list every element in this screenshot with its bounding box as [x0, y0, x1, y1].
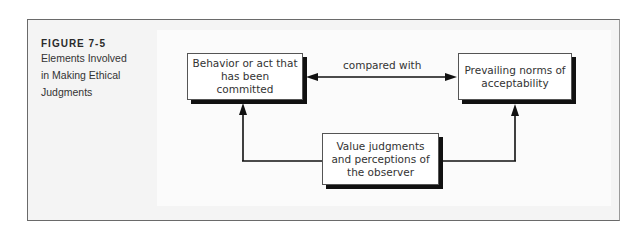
arrow-right-icon — [445, 73, 457, 81]
arrow-up-left-icon — [239, 103, 247, 115]
diagram-connectors — [0, 0, 644, 241]
compared-with-label: compared with — [343, 59, 421, 71]
norms-node: Prevailing norms of acceptability — [458, 53, 572, 100]
judgments-node: Value judgments and perceptions of the o… — [322, 133, 439, 185]
arrow-up-right-icon — [511, 104, 519, 116]
arrow-left-icon — [306, 73, 318, 81]
behavior-node: Behavior or act that has been committed — [187, 53, 303, 100]
